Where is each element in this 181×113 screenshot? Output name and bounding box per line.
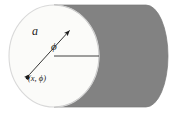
cylinder-diagram: a ϕ (x, ϕ) [0,0,181,113]
angle-label-phi: ϕ [51,41,57,52]
cylinder-figure-svg [0,0,181,113]
point-label-x-phi: (x, ϕ) [28,74,46,83]
radius-label-a: a [32,25,38,37]
